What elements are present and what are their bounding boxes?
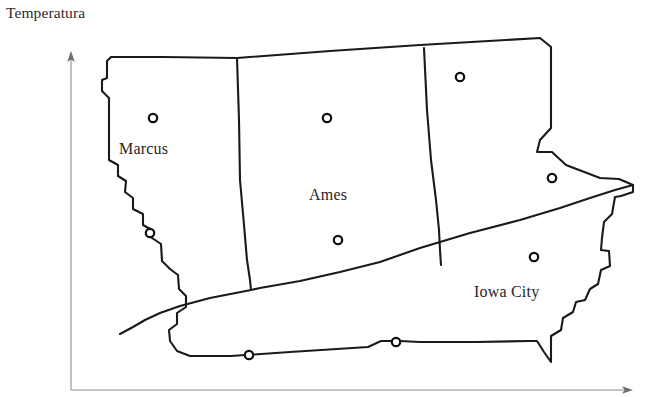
chart-canvas: Temperatura MarcusAmesIowa City	[0, 0, 661, 397]
city-label-ames: Ames	[309, 186, 347, 204]
city-marker-ames[interactable]	[334, 236, 342, 244]
city-marker-unlabeled-2[interactable]	[548, 174, 556, 182]
city-marker-unlabeled-1[interactable]	[456, 73, 464, 81]
city-label-marcus: Marcus	[119, 140, 168, 158]
city-marker-unlabeled-5[interactable]	[392, 338, 400, 346]
city-marker-unlabeled-0[interactable]	[323, 114, 331, 122]
city-marker-unlabeled-3[interactable]	[146, 229, 154, 237]
state-outline-path	[102, 38, 633, 362]
city-label-iowa-city: Iowa City	[474, 283, 539, 301]
state-shape-group	[102, 38, 633, 362]
city-marker-unlabeled-4[interactable]	[245, 351, 253, 359]
city-marker-marcus[interactable]	[149, 114, 157, 122]
city-marker-iowa-city[interactable]	[530, 253, 538, 261]
